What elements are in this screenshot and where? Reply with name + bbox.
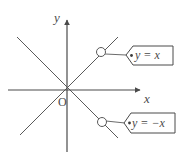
callout-tag-dot-1: [130, 54, 133, 57]
origin-label: O: [58, 96, 67, 108]
leader-line-2: [106, 121, 125, 123]
leader-line-1: [105, 54, 126, 55]
y-axis-label: y: [54, 11, 60, 24]
figure-canvas: [0, 0, 177, 157]
x-axis-label: x: [144, 92, 150, 105]
marker-circle-y-equals-negative-x: [98, 118, 107, 127]
coordinate-plane-figure: y x O y = x y = −x: [0, 0, 177, 157]
marker-circle-y-equals-x: [97, 48, 106, 57]
callout-tag-dot-2: [128, 122, 131, 125]
callout-label-y-equals-x: y = x: [135, 49, 160, 61]
callout-label-y-equals-negative-x: y = −x: [132, 117, 165, 129]
